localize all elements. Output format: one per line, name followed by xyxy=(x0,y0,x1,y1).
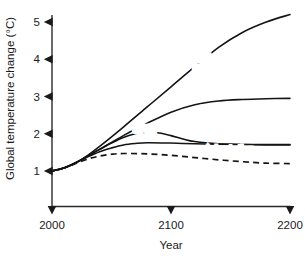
x-axis-tick-marker xyxy=(286,206,295,215)
y-axis-tick-label: 1 xyxy=(34,165,40,177)
y-axis-tick-label: 4 xyxy=(34,53,41,65)
x-axis-tick-label: 2200 xyxy=(277,219,303,231)
y-axis-tick-marker xyxy=(44,55,53,64)
line-chart: 12345200021002200 Businessas usualEmissi… xyxy=(0,0,305,261)
y-axis-tick-marker xyxy=(44,92,53,101)
y-axis-title: Global temperature change (°C) xyxy=(4,17,16,180)
y-axis-tick-label: 5 xyxy=(34,16,40,28)
series-annotation-label: Adaptation xyxy=(204,143,255,155)
chart-figure: 12345200021002200 Businessas usualEmissi… xyxy=(0,0,305,261)
y-axis-tick-marker xyxy=(44,18,53,27)
y-axis-tick-label: 2 xyxy=(34,128,40,140)
chart-axes: 12345200021002200 xyxy=(34,15,303,231)
series-annotation-label: SRM xyxy=(133,123,157,135)
x-axis-tick-label: 2100 xyxy=(158,219,184,231)
y-axis-tick-label: 3 xyxy=(34,91,40,103)
x-axis-tick-marker xyxy=(167,206,176,215)
x-axis-tick-marker xyxy=(48,206,57,215)
x-axis-title: Year xyxy=(159,239,182,251)
x-axis-tick-label: 2000 xyxy=(39,219,65,231)
series-annotation-label: as usual xyxy=(94,63,133,75)
y-axis-tick-marker xyxy=(44,129,53,138)
series-annotation-label: gas removal xyxy=(197,116,255,128)
series-annotation-label: Reduction xyxy=(192,63,240,75)
